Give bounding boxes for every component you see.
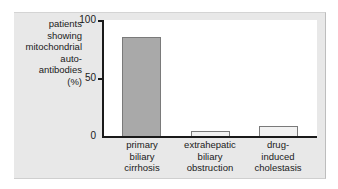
- x-label-line: extrahepatic: [175, 139, 245, 151]
- x-label-line: drug-: [243, 139, 313, 151]
- y-tick-label-50: 50: [66, 72, 96, 83]
- x-label-line: biliary: [107, 151, 177, 163]
- x-label-line: cholestasis: [243, 162, 313, 174]
- x-label-line: induced: [243, 151, 313, 163]
- bar-primary-biliary-cirrhosis: [122, 37, 161, 137]
- x-category-label: primary biliary cirrhosis: [107, 139, 177, 174]
- y-tick-label-100: 100: [66, 14, 96, 25]
- x-category-label: extrahepatic biliary obstruction: [175, 139, 245, 174]
- x-axis: [102, 136, 317, 138]
- y-axis: [102, 20, 104, 137]
- x-label-line: primary: [107, 139, 177, 151]
- y-label-line: showing: [20, 30, 82, 42]
- x-label-line: biliary: [175, 151, 245, 163]
- y-tick-label-0: 0: [66, 130, 96, 141]
- y-label-line: auto-: [20, 53, 82, 65]
- x-label-line: obstruction: [175, 162, 245, 174]
- x-category-label: drug- induced cholestasis: [243, 139, 313, 174]
- x-label-line: cirrhosis: [107, 162, 177, 174]
- y-label-line: mitochondrial: [20, 41, 82, 53]
